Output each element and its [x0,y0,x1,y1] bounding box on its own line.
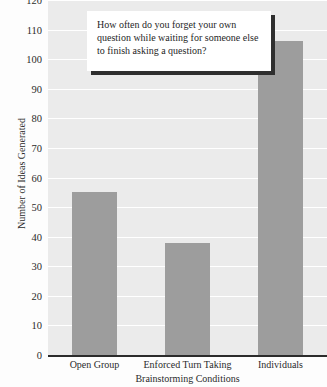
gridline [48,0,327,1]
bar-chart-figure: 0102030405060708090100110120 Open GroupE… [0,0,327,387]
bar [258,41,303,355]
y-tick-label: 0 [6,350,42,361]
bar [165,243,210,355]
bar [72,192,117,355]
y-tick-label: 10 [6,320,42,331]
y-tick-label: 30 [6,261,42,272]
title-callout-box: How often do you forget your own questio… [87,11,271,71]
x-tick-label: Enforced Turn Taking [144,359,232,370]
x-tick-label: Open Group [70,359,120,370]
y-axis-title: Number of Ideas Generated [16,89,27,259]
x-axis-line [48,355,327,357]
y-tick-label: 120 [6,0,42,6]
y-tick-label: 110 [6,24,42,35]
y-tick-label: 100 [6,54,42,65]
chart-title: How often do you forget your own questio… [97,18,262,58]
x-tick-label: Individuals [258,359,303,370]
x-axis-title: Brainstorming Conditions [48,373,327,384]
y-tick-label: 20 [6,290,42,301]
